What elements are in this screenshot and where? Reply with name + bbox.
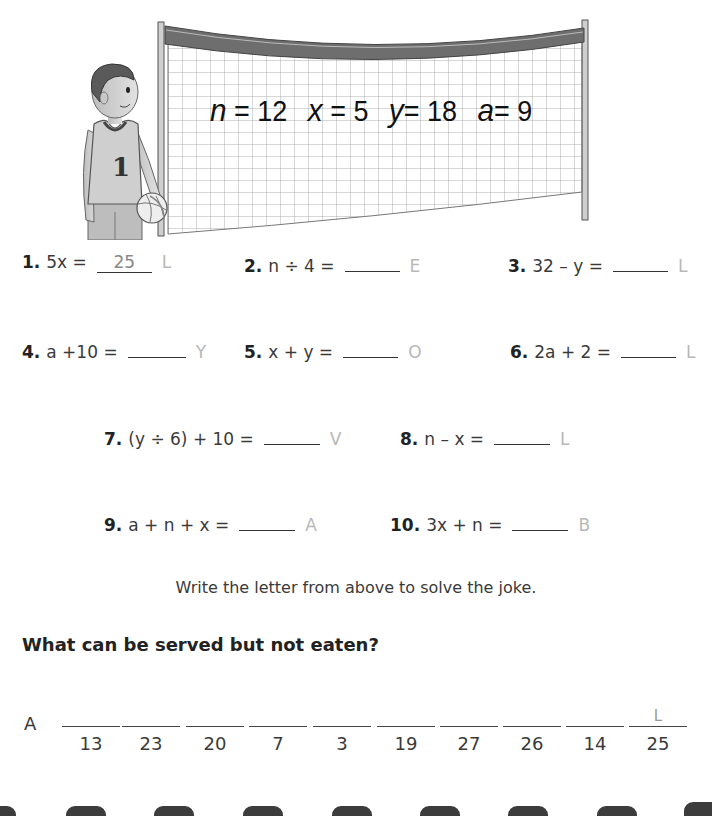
problem-1: 1. 5x = 25 L [22, 252, 171, 273]
answer-blank-3[interactable] [613, 252, 668, 272]
letter-1: L [162, 252, 171, 272]
answer-slot[interactable]: 3 [313, 705, 371, 754]
answer-blank-4[interactable] [128, 338, 186, 358]
letter-10: B [578, 515, 590, 535]
answer-blank-7[interactable] [264, 425, 320, 445]
letter-6: L [686, 342, 695, 362]
answer-slot[interactable]: 13 [62, 705, 120, 754]
answer-slot[interactable]: 23 [122, 705, 180, 754]
letter-9: A [305, 515, 317, 535]
var-a: a= 9 [477, 92, 532, 129]
joke-question: What can be served but not eaten? [22, 634, 379, 655]
boy-figure: 1 [83, 64, 167, 240]
answer-slot[interactable]: 14 [566, 705, 624, 754]
answer-slot[interactable]: 20 [186, 705, 244, 754]
decorative-tab [154, 806, 194, 816]
problem-3: 3. 32 – y = L [508, 252, 687, 276]
answer-blank-1[interactable]: 25 [97, 253, 152, 273]
letter-5: O [408, 342, 421, 362]
decorative-tab [684, 802, 712, 816]
decorative-tab [0, 806, 16, 816]
decorative-tab [597, 806, 637, 816]
problem-8: 8. n – x = L [400, 425, 570, 449]
answer-blank-8[interactable] [494, 425, 550, 445]
problem-2: 2. n ÷ 4 = E [244, 252, 420, 276]
problem-5: 5. x + y = O [244, 338, 422, 362]
var-y: y= 18 [389, 92, 457, 129]
letter-8: L [560, 429, 569, 449]
var-x: x = 5 [308, 92, 369, 129]
answer-slot[interactable]: 26 [503, 705, 561, 754]
problem-10: 10. 3x + n = B [390, 511, 590, 535]
letter-2: E [410, 256, 421, 276]
answer-slot[interactable]: 19 [377, 705, 435, 754]
instruction-text: Write the letter from above to solve the… [0, 578, 712, 597]
bottom-decorative-tabs [0, 802, 712, 816]
answer-blank-5[interactable] [343, 338, 398, 358]
decorative-tab [508, 806, 548, 816]
decorative-tab [332, 806, 372, 816]
decorative-tab [66, 806, 106, 816]
answer-slot[interactable]: 7 [249, 705, 307, 754]
decorative-tab [420, 806, 460, 816]
answer-blank-2[interactable] [345, 252, 400, 272]
letter-4: Y [196, 342, 206, 362]
answer-blank-10[interactable] [512, 511, 568, 531]
var-n: n = 12 [210, 92, 287, 129]
jersey-number: 1 [112, 152, 130, 182]
problem-6: 6. 2a + 2 = L [510, 338, 696, 362]
letter-3: L [678, 256, 687, 276]
problem-7: 7. (y ÷ 6) + 10 = V [104, 425, 341, 449]
answer-prefix: A [24, 713, 36, 734]
variable-values: n = 12 x = 5 y= 18 a= 9 [210, 88, 545, 132]
answer-slot[interactable]: 27 [440, 705, 498, 754]
problem-4: 4. a +10 = Y [22, 338, 206, 362]
answer-slot[interactable]: L25 [629, 705, 687, 754]
decorative-tab [243, 806, 283, 816]
letter-7: V [330, 429, 342, 449]
answer-blank-6[interactable] [621, 338, 676, 358]
answer-blank-9[interactable] [239, 511, 295, 531]
volleyball-illustration: 1 n = 12 x = 5 y= 18 a= 9 [0, 0, 712, 240]
joke-answer-row: A 13 23 20 7 3 19 27 26 14 L25 [0, 705, 712, 765]
problem-9: 9. a + n + x = A [104, 511, 317, 535]
